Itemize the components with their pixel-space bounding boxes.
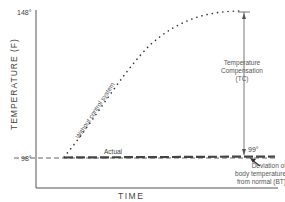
y-tick-98: 98°	[21, 155, 32, 162]
tc-line-2: Compensation	[199, 67, 285, 75]
bt-annotation: Deviation of body temperature from norma…	[218, 162, 285, 186]
y-axis-label: TEMPERATURE (F)	[9, 38, 19, 130]
end-value-99: 99°	[248, 146, 259, 153]
bt-line-1: Deviation of	[218, 162, 285, 170]
actual-temperature-line	[64, 157, 275, 158]
uncontrolled-temperature-curve	[64, 11, 242, 157]
tc-annotation: Temperature Compensation (TC)	[199, 59, 285, 83]
bt-line-3: from normal (BT)	[218, 178, 285, 186]
actual-label: Actual	[104, 149, 122, 156]
tc-arrow-up-head	[242, 13, 246, 19]
bt-line-2: body temperature	[218, 170, 285, 178]
tc-arrow-down-head	[242, 149, 246, 155]
tc-line-1: Temperature	[199, 59, 285, 67]
x-axis-label: TIME	[118, 191, 144, 201]
y-tick-148: 148°	[17, 9, 31, 16]
tc-line-3: (TC)	[199, 75, 285, 83]
